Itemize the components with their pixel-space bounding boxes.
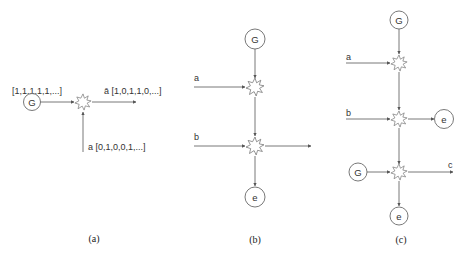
gate-star-icon	[75, 94, 91, 110]
output-label: ā [1,0,1,1,0,...]	[104, 86, 162, 96]
sink-right-node-label: e	[441, 114, 446, 125]
input-a-label: a	[346, 52, 351, 62]
input-label: a [0,1,0,0,1,...]	[88, 142, 146, 152]
gate3-star-icon	[391, 164, 407, 180]
generator-top-node-label: G	[395, 15, 402, 26]
generator-node-label: G	[251, 34, 258, 45]
output-c-label: c	[448, 160, 453, 170]
sink-bottom-node-label: e	[396, 211, 401, 222]
gate2-star-icon	[391, 111, 407, 127]
caption-a: (a)	[88, 233, 99, 245]
input-b-label: b	[194, 132, 199, 142]
caption-b: (b)	[249, 234, 261, 246]
generator-node-label: G	[28, 97, 35, 108]
panel-b: G a b e (b)	[194, 29, 311, 246]
diagram-canvas: [1,1,1,1,1,...] G ā [1,0,1,1,0,...] a [0…	[0, 0, 462, 258]
gate1-star-icon	[391, 55, 407, 71]
input-a-label: a	[194, 73, 199, 83]
panel-c: G a b e G c e (c)	[346, 11, 454, 246]
caption-c: (c)	[395, 234, 406, 246]
gate2-star-icon	[246, 137, 264, 155]
sink-node-label: e	[252, 192, 257, 203]
gate1-star-icon	[246, 78, 264, 96]
generator-left-node-label: G	[354, 167, 361, 178]
input-b-label: b	[346, 108, 351, 118]
panel-a: [1,1,1,1,1,...] G ā [1,0,1,1,0,...] a [0…	[12, 86, 162, 245]
generator-sequence-label: [1,1,1,1,1,...]	[12, 86, 62, 96]
